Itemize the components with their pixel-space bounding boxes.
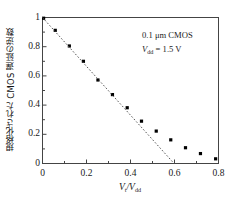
annotation-process: 0.1 μm CMOS <box>142 29 193 42</box>
annotation-vdd-value: = 1.5 V <box>153 44 181 54</box>
data-point <box>214 157 217 160</box>
data-point <box>140 120 143 123</box>
x-axis-label-numerator: V <box>119 182 125 192</box>
annotation-supply-voltage: Vdd = 1.5 V <box>142 43 182 56</box>
chart-figure: 規格化された CMOS 遅延の逆数 00.20.40.60.81 00.20.4… <box>0 0 245 205</box>
data-point <box>155 129 158 132</box>
data-point <box>126 106 129 109</box>
x-axis-label-denominator-sub: dd <box>135 186 141 193</box>
data-point <box>184 146 187 149</box>
data-point <box>199 152 202 155</box>
annotation-vdd-subscript: dd <box>147 48 153 55</box>
x-axis-label: Vt/Vdd <box>42 182 218 192</box>
data-point <box>169 138 172 141</box>
plot-canvas <box>0 0 245 205</box>
